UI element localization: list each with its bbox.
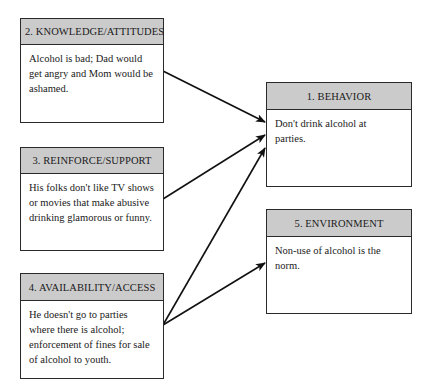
box-header: 1. BEHAVIOR: [267, 83, 411, 110]
box-header: 5. ENVIRONMENT: [267, 210, 411, 237]
box-header: 3. REINFORCE/SUPPORT: [21, 148, 163, 174]
box-availability-access: 4. AVAILABILITY/ACCESS He doesn't go to …: [20, 273, 164, 379]
box-body: His folks don't like TV shows or movies …: [21, 174, 163, 231]
box-body: Alcohol is bad; Dad would get angry and …: [21, 45, 163, 102]
arrow-availability-to-behavior: [163, 148, 265, 325]
box-environment: 5. ENVIRONMENT Non-use of alcohol is the…: [266, 209, 412, 314]
arrow-knowledge-to-behavior: [163, 71, 265, 122]
box-body: Don't drink alcohol at parties.: [267, 110, 411, 152]
box-reinforce-support: 3. REINFORCE/SUPPORT His folks don't lik…: [20, 147, 164, 251]
box-behavior: 1. BEHAVIOR Don't drink alcohol at parti…: [266, 82, 412, 187]
box-body: Non-use of alcohol is the norm.: [267, 237, 411, 279]
box-header: 2. KNOWLEDGE/ATTITUDES: [21, 19, 163, 45]
box-header: 4. AVAILABILITY/ACCESS: [21, 274, 163, 301]
box-knowledge-attitudes: 2. KNOWLEDGE/ATTITUDES Alcohol is bad; D…: [20, 18, 164, 123]
box-body: He doesn't go to parties where there is …: [21, 301, 163, 373]
arrow-reinforce-to-behavior: [163, 135, 265, 199]
arrow-availability-to-environment: [163, 263, 265, 325]
